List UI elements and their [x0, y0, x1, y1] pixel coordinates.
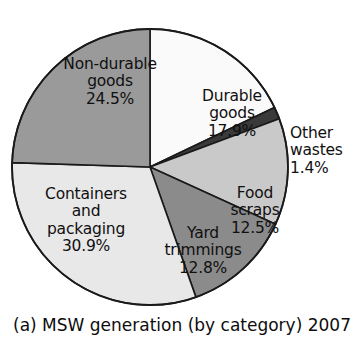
pie-chart-figure: Non-durable goods 24.5% Durable goods 17… [0, 0, 364, 344]
pie-slice-group [12, 29, 288, 305]
pie-chart-svg [0, 0, 364, 344]
figure-caption: (a) MSW generation (by category) 2007 [0, 315, 364, 335]
pie-slice-non_durable[interactable] [12, 29, 150, 167]
